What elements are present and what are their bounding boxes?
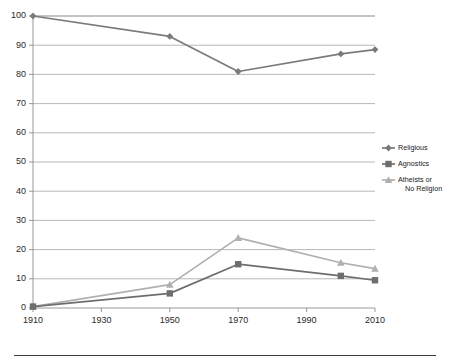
x-axis-ticks: 191019301950197019902010 [23,308,385,325]
legend-label: Agnostics [398,159,430,168]
legend-item-religious: Religious [382,143,428,152]
x-tick-label: 1970 [228,315,248,325]
data-point [30,303,36,309]
x-tick-label: 2010 [365,315,385,325]
x-tick-label: 1990 [297,315,317,325]
data-point [372,277,378,283]
legend-marker [385,161,391,167]
line-chart-svg: 0102030405060708090100 19101930195019701… [0,0,450,330]
legend-label: Religious [398,143,428,152]
data-point [235,261,241,267]
y-tick-label: 0 [21,302,26,312]
x-axis-title: Year [192,329,216,330]
x-tick-label: 1930 [91,315,111,325]
y-tick-label: 40 [16,186,26,196]
y-tick-label: 60 [16,127,26,137]
y-axis-ticks: 0102030405060708090100 [11,10,33,312]
legend-label: Atheists or [398,175,433,184]
y-tick-label: 80 [16,69,26,79]
legend-marker [385,145,392,152]
y-tick-label: 100 [11,10,26,20]
bottom-divider [14,355,436,356]
chart-legend: ReligiousAgnosticsAtheists orNo Religion [382,143,442,193]
data-point [167,290,173,296]
y-tick-label: 70 [16,98,26,108]
chart-plot-area: 0102030405060708090100 19101930195019701… [0,0,450,330]
chart-figure: 0102030405060708090100 19101930195019701… [0,0,450,364]
y-tick-label: 30 [16,215,26,225]
legend-item-agnostics: Agnostics [382,159,430,168]
x-tick-label: 1910 [23,315,43,325]
y-tick-label: 10 [16,273,26,283]
legend-item-atheists-or-no-religion: Atheists orNo Religion [382,175,442,193]
legend-label: No Religion [405,184,442,193]
y-tick-label: 50 [16,156,26,166]
data-point [338,273,344,279]
y-tick-label: 90 [16,40,26,50]
y-tick-label: 20 [16,244,26,254]
x-tick-label: 1950 [160,315,180,325]
